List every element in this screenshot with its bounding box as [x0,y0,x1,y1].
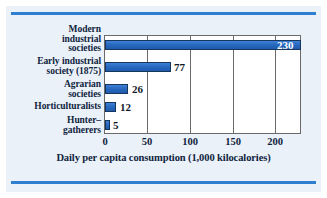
xtick-label-100: 100 [182,136,198,147]
figure: Modern industrial societies Early indust… [0,0,327,198]
category-axis-labels: Modern industrial societies Early indust… [0,0,104,198]
bar-chart: Modern industrial societies Early indust… [0,0,327,198]
bar-early-industrial-society[interactable] [105,62,171,72]
bar-agrarian-societies[interactable] [105,84,128,94]
category-label-agrarian-societies: Agrarian societies [0,80,104,99]
xtick-label-200: 200 [267,136,283,147]
xtick-label-0: 0 [102,136,107,147]
value-label-agrarian-societies: 26 [132,84,143,94]
category-label-modern-industrial-societies: Modern industrial societies [0,25,104,54]
xtick-label-50: 50 [142,136,153,147]
bar-modern-industrial-societies[interactable] [105,40,301,50]
bar-horticulturalists[interactable] [105,102,116,112]
gridline-50 [147,36,148,133]
category-label-line: societies [0,90,101,100]
category-label-horticulturalists: Horticulturalists [0,102,104,112]
category-label-line: gatherers [0,126,101,136]
gridline-200 [275,36,276,133]
bar-hunter-gatherers[interactable] [105,120,110,130]
value-label-early-industrial-society: 77 [174,62,185,72]
gridline-150 [233,36,234,133]
plot-area: 230 77 26 12 5 [104,35,301,134]
x-axis-title: Daily per capita consumption (1,000 kilo… [0,152,327,163]
category-label-early-industrial-society: Early industrial society (1875) [0,57,104,76]
category-label-line: society (1875) [0,67,101,77]
category-label-line: Horticulturalists [0,102,101,112]
category-label-line: societies [0,44,101,54]
value-label-hunter-gatherers: 5 [113,120,119,130]
value-label-horticulturalists: 12 [120,102,131,112]
xtick-label-150: 150 [225,136,241,147]
value-label-modern-industrial-societies: 230 [277,40,294,50]
gridline-100 [190,36,191,133]
category-label-hunter-gatherers: Hunter– gatherers [0,116,104,135]
